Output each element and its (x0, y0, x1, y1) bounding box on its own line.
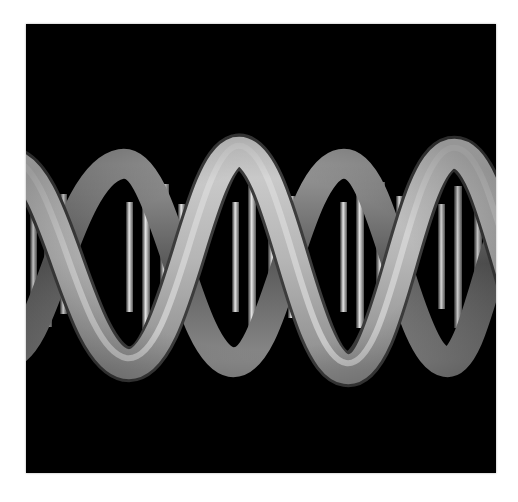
dna-helix-illustration (26, 24, 496, 473)
dna-image: 3D render of a grey DNA double helix on … (26, 24, 496, 473)
shading-overlay (26, 134, 496, 394)
